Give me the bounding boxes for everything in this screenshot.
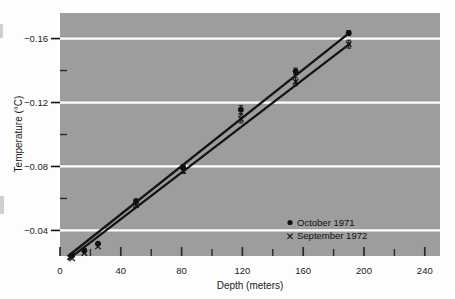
- legend-label-october: October 1971: [297, 217, 355, 228]
- chart-canvas: −0.16−0.12−0.08−0.04 04080120160200240 D…: [0, 0, 455, 299]
- y-tick-label-2: −0.08: [24, 161, 48, 172]
- x-tick-label-4: 160: [295, 265, 311, 276]
- figure-container: −0.16−0.12−0.08−0.04 04080120160200240 D…: [0, 0, 455, 299]
- x-tick-label-3: 120: [234, 265, 250, 276]
- data-point-circle-icon: [346, 30, 352, 36]
- data-point-circle-icon: [293, 68, 299, 74]
- y-axis-tick-labels: −0.16−0.12−0.08−0.04: [24, 33, 48, 236]
- page-edge-artifact: [0, 24, 3, 38]
- y-tick-label-1: −0.12: [24, 97, 48, 108]
- y-tick-label-3: −0.04: [24, 225, 48, 236]
- x-tick-label-0: 0: [57, 265, 62, 276]
- x-axis-title: Depth (meters): [217, 280, 284, 291]
- plot-area-background: [60, 13, 440, 256]
- x-tick-label-6: 240: [417, 265, 433, 276]
- x-tick-label-2: 80: [176, 265, 187, 276]
- legend-marker-october-circle-icon: [287, 220, 292, 225]
- y-tick-label-0: −0.16: [24, 33, 48, 44]
- x-axis-tick-labels: 04080120160200240: [57, 265, 432, 276]
- data-point-circle-icon: [238, 107, 244, 113]
- x-tick-label-1: 40: [116, 265, 127, 276]
- x-tick-label-5: 200: [356, 265, 372, 276]
- y-axis-title: Temperature (°C): [13, 96, 24, 173]
- page-edge-artifact: [0, 196, 4, 214]
- legend-label-september: September 1972: [297, 230, 367, 241]
